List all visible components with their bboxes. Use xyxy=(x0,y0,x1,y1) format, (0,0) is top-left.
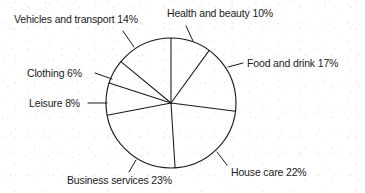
pie-chart-figure: Health and beauty 10% Food and drink 17%… xyxy=(0,0,365,193)
leader-food-and-drink xyxy=(228,63,243,67)
leader-health-and-beauty xyxy=(186,26,193,41)
slice-label-health-and-beauty: Health and beauty 10% xyxy=(167,7,273,19)
slice-label-vehicles-and-transport: Vehicles and transport 14% xyxy=(14,13,138,25)
leader-house-care xyxy=(217,152,227,165)
slice-label-leisure: Leisure 8% xyxy=(29,97,80,109)
slice-label-clothing: Clothing 6% xyxy=(27,67,82,79)
slice-label-food-and-drink: Food and drink 17% xyxy=(247,57,338,69)
leader-clothing xyxy=(95,73,112,79)
leader-vehicles-transport xyxy=(123,31,134,47)
pie-geometry xyxy=(88,26,243,172)
slice-label-house-care: House care 22% xyxy=(231,166,307,178)
leader-business-services xyxy=(129,160,136,172)
slice-label-business-services: Business services 23% xyxy=(67,174,172,186)
